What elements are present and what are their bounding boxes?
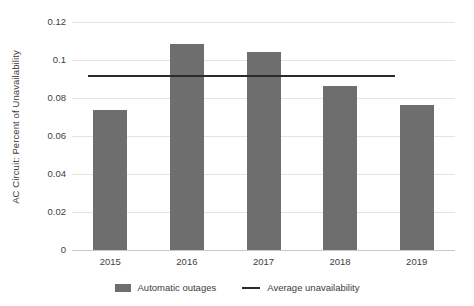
y-tick-label: 0.1 — [32, 55, 66, 65]
legend-label-automatic-outages: Automatic outages — [138, 282, 217, 294]
legend-label-average-unavailability: Average unavailability — [267, 282, 359, 294]
x-tick-label: 2017 — [234, 256, 294, 268]
y-tick-label: 0.04 — [32, 169, 66, 179]
plot-area — [72, 22, 455, 250]
line-swatch-icon — [242, 287, 260, 289]
bar-swatch-icon — [115, 284, 131, 292]
x-tick-label: 2018 — [310, 256, 370, 268]
x-axis-tick-labels: 20152016201720182019 — [72, 256, 455, 270]
y-tick-label: 0.12 — [32, 17, 66, 27]
bar — [323, 86, 357, 250]
y-axis-tick-labels: 00.020.040.060.080.10.12 — [28, 17, 66, 257]
x-tick-label: 2016 — [157, 256, 217, 268]
chart-legend: Automatic outages Average unavailability — [0, 280, 474, 296]
y-tick-label: 0.08 — [32, 93, 66, 103]
y-tick-label: 0.02 — [32, 207, 66, 217]
y-tick-label: 0 — [32, 245, 66, 255]
bar — [247, 52, 281, 250]
bar — [93, 110, 127, 250]
gridline — [72, 22, 455, 23]
legend-entry-automatic-outages: Automatic outages — [115, 282, 217, 294]
y-axis-title: AC Circuit: Percent of Unavailability — [8, 2, 24, 252]
legend-entry-average-unavailability: Average unavailability — [242, 282, 359, 294]
average-unavailability-line — [88, 75, 394, 77]
y-tick-label: 0.06 — [32, 131, 66, 141]
gridline — [72, 250, 455, 251]
bar — [400, 105, 434, 250]
x-tick-label: 2015 — [80, 256, 140, 268]
x-tick-label: 2019 — [387, 256, 447, 268]
bar-chart: AC Circuit: Percent of Unavailability 00… — [0, 0, 474, 306]
